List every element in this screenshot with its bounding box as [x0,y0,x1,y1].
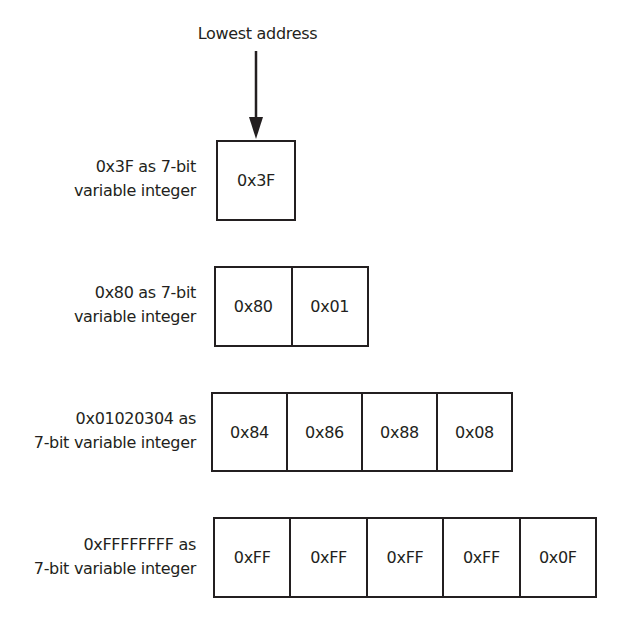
byte-cell: 0x88 [361,394,436,470]
byte-cell: 0x0F [519,519,595,596]
byte-cell: 0x01 [291,268,368,345]
byte-cell: 0xFF [442,519,518,596]
byte-cell: 0x80 [216,268,291,345]
row-label-line: variable integer [74,179,196,203]
row-label-0x80: 0x80 as 7-bit variable integer [74,281,196,329]
row-label-line: variable integer [74,305,196,329]
row-label-line: 7-bit variable integer [34,431,196,455]
byte-cell: 0x86 [286,394,361,470]
byte-cell: 0xFF [366,519,442,596]
byte-cell: 0x84 [213,394,286,470]
byte-cell: 0xFF [215,519,289,596]
byte-row-0xffffffff: 0xFF 0xFF 0xFF 0xFF 0x0F [213,517,597,598]
row-label-0x3f: 0x3F as 7-bit variable integer [74,155,196,203]
row-label-line: 0xFFFFFFFF as [34,533,196,557]
byte-row-0x3f: 0x3F [216,140,296,221]
byte-row-0x01020304: 0x84 0x86 0x88 0x08 [211,392,513,472]
row-label-0x01020304: 0x01020304 as 7-bit variable integer [34,407,196,455]
byte-cell: 0xFF [289,519,365,596]
byte-row-0x80: 0x80 0x01 [214,266,369,347]
row-label-line: 7-bit variable integer [34,557,196,581]
byte-cell: 0x3F [218,142,294,219]
row-label-line: 0x3F as 7-bit [74,155,196,179]
byte-cell: 0x08 [436,394,511,470]
row-label-line: 0x01020304 as [34,407,196,431]
row-label-0xffffffff: 0xFFFFFFFF as 7-bit variable integer [34,533,196,581]
row-label-line: 0x80 as 7-bit [74,281,196,305]
